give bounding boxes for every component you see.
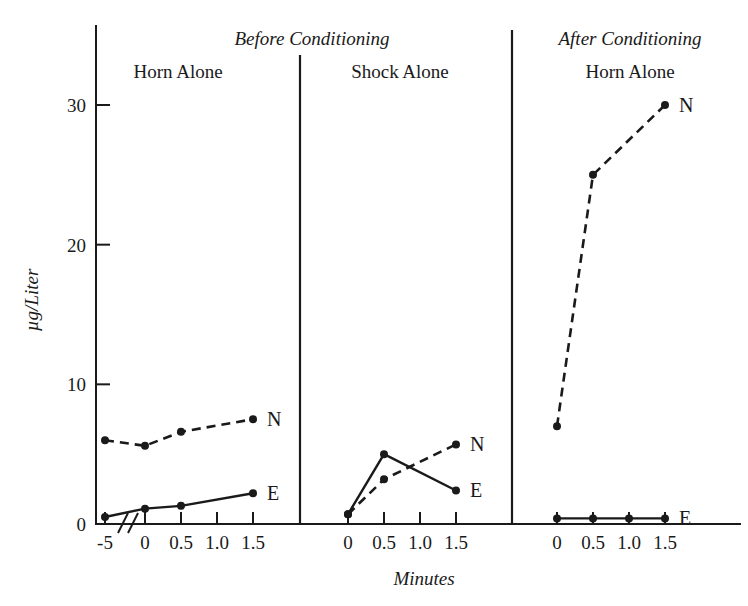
data-point (380, 475, 388, 483)
x-tick-label: 0 (140, 532, 150, 553)
data-point (625, 514, 633, 522)
y-tick-labels: 0102030 (67, 95, 86, 535)
data-point (177, 428, 185, 436)
series-label-N: N (679, 94, 693, 116)
series-label-N: N (470, 433, 484, 455)
data-point (249, 415, 257, 423)
data-point (452, 440, 460, 448)
data-point (141, 505, 149, 513)
x-tick-label: 0 (343, 532, 353, 553)
y-tick-label: 20 (67, 235, 86, 256)
group-header-after-conditioning: After Conditioning (556, 28, 701, 49)
x-axis-title: Minutes (392, 568, 454, 589)
data-point (661, 101, 669, 109)
group-header-before-conditioning: Before Conditioning (235, 28, 390, 49)
x-tick-labels: -500.51.01.500.51.01.500.51.01.5 (97, 532, 677, 553)
data-point (177, 502, 185, 510)
panel-title-horn-alone-before: Horn Alone (133, 61, 222, 82)
y-tick-label: 0 (77, 514, 87, 535)
y-tick-label: 10 (67, 374, 86, 395)
data-point (589, 171, 597, 179)
data-point (380, 450, 388, 458)
data-point (553, 422, 561, 430)
figure-container: Before Conditioning After Conditioning H… (0, 0, 748, 606)
x-tick-label: 1.0 (617, 532, 641, 553)
x-tick-label: 0 (552, 532, 562, 553)
x-tick-label: 0.5 (372, 532, 396, 553)
series-line-N (348, 444, 456, 514)
data-point (589, 514, 597, 522)
data-point (452, 486, 460, 494)
series-label-N: N (267, 408, 281, 430)
x-tick-label: 0.5 (581, 532, 605, 553)
x-tick-label: 1.0 (205, 532, 229, 553)
x-tick-label: 0.5 (169, 532, 193, 553)
data-point (553, 514, 561, 522)
x-tick-label: 1.5 (241, 532, 265, 553)
x-tick-label: 1.0 (408, 532, 432, 553)
x-tick-label: -5 (97, 532, 113, 553)
catecholamine-line-chart: Before Conditioning After Conditioning H… (0, 0, 748, 606)
series-label-E: E (470, 479, 482, 501)
y-axis-title: µg/Liter (21, 268, 42, 331)
y-tick-marks (96, 105, 110, 384)
data-point (141, 442, 149, 450)
data-point (101, 436, 109, 444)
series-label-E: E (679, 507, 691, 529)
x-tick-label: 1.5 (653, 532, 677, 553)
series-label-E: E (267, 482, 279, 504)
panel-title-shock-alone: Shock Alone (351, 61, 449, 82)
series-line-E (348, 454, 456, 514)
series-line-N (557, 105, 665, 426)
panel-title-horn-alone-after: Horn Alone (585, 61, 674, 82)
data-point (249, 489, 257, 497)
y-tick-label: 30 (67, 95, 86, 116)
data-point (101, 513, 109, 521)
series-layer: NENENE (101, 94, 693, 529)
data-point (661, 514, 669, 522)
x-tick-label: 1.5 (444, 532, 468, 553)
data-point (344, 510, 352, 518)
